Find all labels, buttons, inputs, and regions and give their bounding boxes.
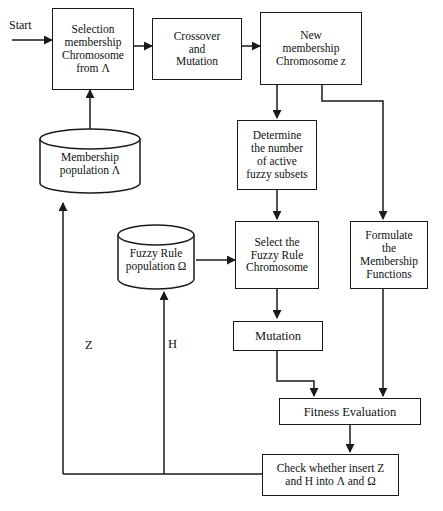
node-crossover-mutation[interactable]: Crossover and Mutation [152,18,242,80]
node-label: Formulate the Membership Functions [358,229,420,281]
node-fitness-evaluation[interactable]: Fitness Evaluation [279,398,421,425]
node-formulate-membership[interactable]: Formulate the Membership Functions [350,221,428,289]
node-label: Membership population Λ [58,151,122,177]
node-label: Check whether insert Z and H into Λ and … [275,462,387,488]
flowchart-canvas: Membership population Λ Fuzzy Rule popul… [0,0,443,511]
edge-new-to-formulate [322,85,383,219]
node-select-fuzzy-rule[interactable]: Select the Fuzzy Rule Chromosome [235,221,319,289]
node-label: Fitness Evaluation [302,405,399,419]
node-selection-membership[interactable]: Selection membership Chromosome from Λ [52,8,134,90]
node-label: Fuzzy Rule population Ω [124,247,189,273]
node-label: Crossover and Mutation [172,30,223,69]
node-label: Select the Fuzzy Rule Chromosome [244,236,310,275]
node-determine-active-subsets[interactable]: Determine the number of active fuzzy sub… [237,120,317,190]
node-membership-population[interactable]: Membership population Λ [38,128,142,194]
node-check-insert[interactable]: Check whether insert Z and H into Λ and … [262,454,399,496]
node-label: New membership Chromosome z [274,29,348,68]
edge-mutation-to-fitness [277,351,314,396]
node-new-membership[interactable]: New membership Chromosome z [260,12,362,85]
edge-label-h: H [168,337,177,352]
node-label: Determine the number of active fuzzy sub… [244,129,310,181]
start-label: Start [9,18,32,33]
edge-label-z: Z [85,338,93,353]
node-mutation[interactable]: Mutation [233,321,323,351]
node-label: Selection membership Chromosome from Λ [60,23,126,75]
node-fuzzy-rule-population[interactable]: Fuzzy Rule population Ω [116,224,196,290]
node-label: Mutation [253,329,303,343]
